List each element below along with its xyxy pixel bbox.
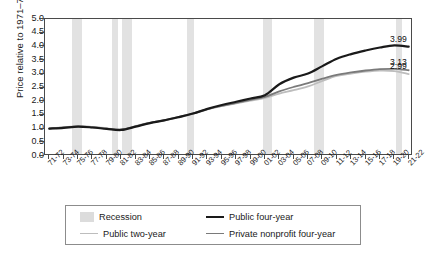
legend-item[interactable]: Private nonprofit four-year: [206, 225, 335, 242]
plot-area: [44, 18, 412, 155]
series-end-value-label: 3.99: [390, 34, 407, 44]
legend-item[interactable]: Public two-year: [80, 225, 166, 242]
series-line: [49, 69, 408, 130]
legend-item[interactable]: Recession: [80, 208, 142, 225]
legend-label: Private nonprofit four-year: [229, 229, 335, 239]
legend-row-1: RecessionPublic four-year: [66, 208, 362, 225]
y-axis: 0.00.51.01.52.02.53.03.54.04.55.0: [0, 0, 44, 255]
legend-item[interactable]: Public four-year: [206, 208, 293, 225]
legend-label: Public two-year: [103, 229, 166, 239]
series-lines-group: [45, 19, 412, 155]
chart-legend: RecessionPublic four-year Public two-yea…: [65, 205, 361, 245]
chart-root: Price relative to 1971–72 0.00.51.01.52.…: [0, 0, 427, 255]
legend-swatch-line: [80, 233, 98, 234]
legend-swatch-recession: [80, 212, 94, 222]
legend-label: Public four-year: [229, 212, 293, 222]
series-end-value-label: 2.99: [390, 61, 407, 71]
legend-swatch-line: [206, 233, 224, 234]
legend-label: Recession: [99, 212, 142, 222]
x-axis: 71-7273-7475-7677-7879-8081-8283-8485-86…: [44, 155, 412, 203]
series-line: [49, 45, 408, 130]
legend-row-2: Public two-yearPrivate nonprofit four-ye…: [66, 225, 362, 242]
legend-swatch-line: [206, 216, 224, 218]
series-line: [49, 70, 408, 129]
